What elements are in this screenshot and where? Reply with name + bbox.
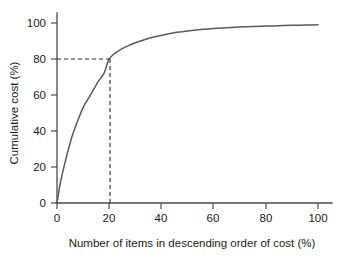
x-tick-label-80: 80 [260,212,273,224]
x-tick-label-40: 40 [155,212,168,224]
y-axis-title: Cumulative cost (%) [8,61,20,164]
x-axis-title: Number of items in descending order of c… [69,237,316,249]
y-tick-label-100: 100 [27,17,46,29]
x-tick-label-0: 0 [54,212,60,224]
pareto-cumulative-cost-chart: 0 20 40 60 80 100 0 20 40 60 80 100 [0,0,360,259]
y-tick-label-60: 60 [33,89,46,101]
y-tick-label-0: 0 [40,197,46,209]
x-tick-label-100: 100 [308,212,327,224]
x-tick-label-60: 60 [207,212,220,224]
y-tick-label-80: 80 [33,53,46,65]
y-tick-label-20: 20 [33,161,46,173]
y-tick-label-40: 40 [33,125,46,137]
chart-container: 0 20 40 60 80 100 0 20 40 60 80 100 [0,0,360,259]
x-tick-label-20: 20 [103,212,116,224]
